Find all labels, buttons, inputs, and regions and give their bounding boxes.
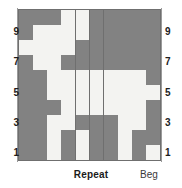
chart-cell xyxy=(47,10,61,25)
chart-cell xyxy=(118,85,132,100)
chart-cell xyxy=(61,25,75,40)
axis-tick-label: 1 xyxy=(5,148,19,158)
chart-cell xyxy=(132,115,146,130)
chart-cell xyxy=(118,100,132,115)
chart-cell xyxy=(90,100,104,115)
axis-tick-label: 7 xyxy=(5,57,19,67)
chart-cell xyxy=(104,70,118,85)
chart-cell xyxy=(90,70,104,85)
chart-cell xyxy=(104,10,118,25)
knitting-chart-grid xyxy=(18,9,161,161)
chart-cell xyxy=(76,55,90,70)
axis-tick-label: 9 xyxy=(5,27,19,37)
chart-cell xyxy=(47,55,61,70)
chart-cell xyxy=(132,10,146,25)
chart-cell xyxy=(19,85,33,100)
chart-cell xyxy=(47,70,61,85)
chart-cell xyxy=(132,55,146,70)
chart-cell xyxy=(76,40,90,55)
chart-cell xyxy=(146,25,160,40)
chart-cell xyxy=(76,10,90,25)
chart-cell xyxy=(19,25,33,40)
chart-cell xyxy=(19,145,33,160)
chart-cell xyxy=(90,145,104,160)
axis-tick-label: 5 xyxy=(5,88,19,98)
chart-cell xyxy=(132,130,146,145)
chart-cell xyxy=(33,100,47,115)
chart-cell xyxy=(132,25,146,40)
chart-cell xyxy=(146,10,160,25)
chart-cell xyxy=(76,25,90,40)
chart-cell xyxy=(33,40,47,55)
chart-cell xyxy=(61,40,75,55)
chart-cell xyxy=(118,130,132,145)
chart-cell xyxy=(132,100,146,115)
axis-tick-label: 3 xyxy=(5,118,19,128)
chart-cell xyxy=(104,85,118,100)
chart-cell xyxy=(146,40,160,55)
chart-cell xyxy=(61,70,75,85)
chart-cell xyxy=(104,145,118,160)
chart-cell xyxy=(146,130,160,145)
axis-tick-label: 7 xyxy=(165,57,179,67)
axis-tick-label: 1 xyxy=(165,148,179,158)
chart-cell xyxy=(146,115,160,130)
chart-cell xyxy=(146,145,160,160)
beg-caption: Beg xyxy=(140,170,180,180)
chart-cell xyxy=(33,55,47,70)
chart-cell xyxy=(47,40,61,55)
chart-cell xyxy=(61,85,75,100)
chart-cell xyxy=(47,100,61,115)
chart-cell xyxy=(118,10,132,25)
chart-cell xyxy=(146,70,160,85)
chart-cell xyxy=(90,25,104,40)
chart-cell xyxy=(61,100,75,115)
chart-cell xyxy=(90,115,104,130)
chart-cell xyxy=(118,145,132,160)
chart-cell xyxy=(61,10,75,25)
chart-cell xyxy=(76,85,90,100)
chart-cell xyxy=(33,130,47,145)
chart-cell xyxy=(118,40,132,55)
chart-cell xyxy=(47,115,61,130)
chart-cell xyxy=(47,145,61,160)
chart-cell xyxy=(76,115,90,130)
chart-cell xyxy=(33,145,47,160)
chart-cell xyxy=(61,55,75,70)
chart-cell xyxy=(19,130,33,145)
chart-cell xyxy=(19,70,33,85)
chart-cell xyxy=(104,115,118,130)
chart-cell xyxy=(132,40,146,55)
chart-container: 97531 97531 Repeat Beg xyxy=(0,0,182,188)
chart-cell xyxy=(76,70,90,85)
grid-right-rule xyxy=(161,8,162,162)
chart-cell xyxy=(132,70,146,85)
axis-tick-label: 5 xyxy=(165,88,179,98)
chart-cell xyxy=(33,25,47,40)
chart-cell xyxy=(47,85,61,100)
chart-cell xyxy=(90,55,104,70)
chart-cell xyxy=(19,55,33,70)
chart-cell xyxy=(104,130,118,145)
chart-cell xyxy=(76,100,90,115)
chart-cell xyxy=(104,100,118,115)
chart-cell xyxy=(76,145,90,160)
chart-cell xyxy=(19,100,33,115)
chart-cell xyxy=(19,115,33,130)
chart-cell xyxy=(118,70,132,85)
chart-cell xyxy=(47,130,61,145)
chart-cell xyxy=(132,85,146,100)
chart-cell xyxy=(90,40,104,55)
chart-cell xyxy=(132,145,146,160)
chart-cell xyxy=(33,10,47,25)
chart-cell xyxy=(146,85,160,100)
chart-cell xyxy=(61,145,75,160)
chart-cell xyxy=(104,40,118,55)
chart-cell xyxy=(118,55,132,70)
chart-cell xyxy=(90,10,104,25)
chart-cell xyxy=(33,115,47,130)
chart-cell xyxy=(61,115,75,130)
chart-cell xyxy=(61,130,75,145)
axis-tick-label: 3 xyxy=(165,118,179,128)
chart-cell xyxy=(104,55,118,70)
